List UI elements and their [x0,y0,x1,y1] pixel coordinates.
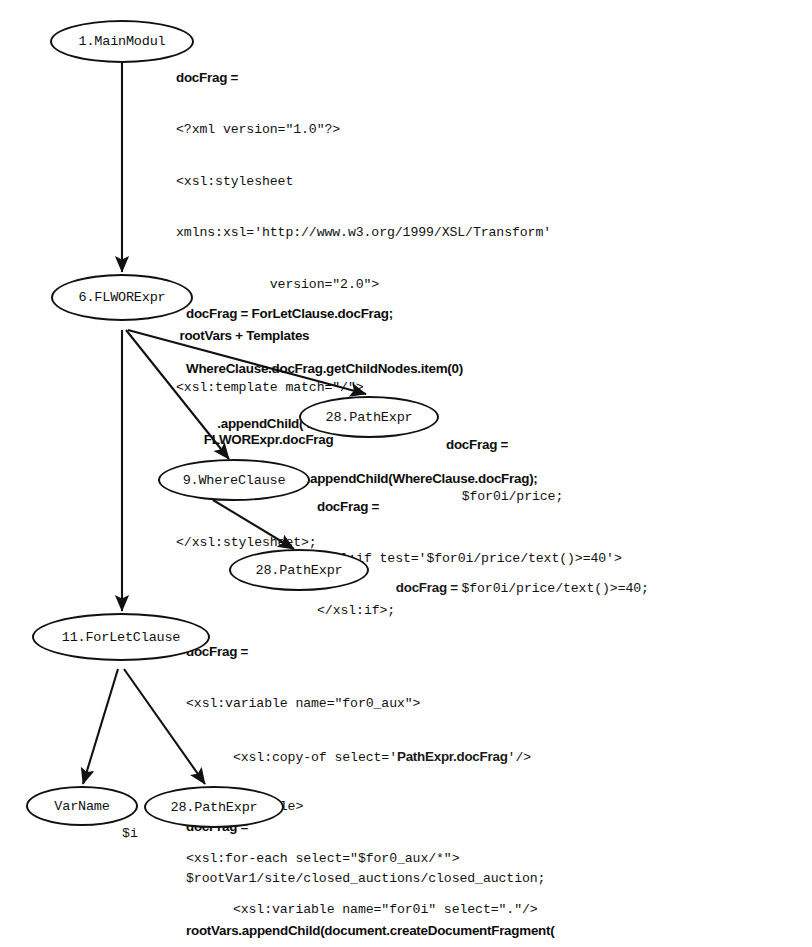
ann-line-composite: <xsl:copy-of select='PathExpr.docFrag'/> [186,747,596,764]
node-pathexpr-test[interactable]: 28.PathExpr [229,549,369,591]
varname-value-label: $i [122,826,138,841]
node-varname[interactable]: VarName [26,786,138,826]
ann-line: rootVars.appendChild(document.createDocu… [186,922,554,939]
node-label: 28.PathExpr [256,563,343,578]
node-forletclause[interactable]: 11.ForLetClause [32,613,210,661]
ann-line: WhereClause.docFrag.getChildNodes.item(0… [186,360,538,378]
ann-line: $for0i/price/text()>=40; [461,581,649,596]
ann-line: <?xml version="1.0"?> [176,121,551,138]
node-label: 6.FLWORExpr [79,290,166,305]
node-pathexpr-price[interactable]: 28.PathExpr [299,396,439,438]
ann-line: docFrag = [396,580,462,595]
annotation-pathexpr-test: docFrag = $for0i/price/text()>=40; [378,561,649,615]
ann-line: docFrag = ForLetClause.docFrag; [186,305,538,323]
node-pathexpr-root[interactable]: 28.PathExpr [144,786,284,828]
ann-line: xmlns:xsl='http://www.w3.org/1999/XSL/Tr… [176,224,551,241]
ann-line: <xsl:variable name="for0_aux"> [186,695,596,712]
node-label: 11.ForLetClause [62,630,181,645]
ann-line: $rootVar1/site/closed_auctions/closed_au… [186,870,554,887]
ann-line: docFrag = [176,69,551,86]
ann-line: docFrag = [186,643,596,660]
ann-line: docFrag = [317,498,622,515]
node-main-module[interactable]: 1.MainModul [50,20,194,63]
edge-forletclause-varname [83,669,118,784]
node-label: 9.WhereClause [183,473,286,488]
derivation-tree-diagram: 1.MainModul 6.FLWORExpr 28.PathExpr 9.Wh… [0,0,812,947]
ann-line: <xsl:stylesheet [176,173,551,190]
node-label: VarName [54,799,109,814]
ann-line: docFrag = [446,436,563,453]
node-flworexpr[interactable]: 6.FLWORExpr [51,274,193,321]
node-label: 1.MainModul [79,34,166,49]
node-whereclause[interactable]: 9.WhereClause [158,459,310,501]
node-label: 28.PathExpr [326,410,413,425]
node-label: 28.PathExpr [171,800,258,815]
